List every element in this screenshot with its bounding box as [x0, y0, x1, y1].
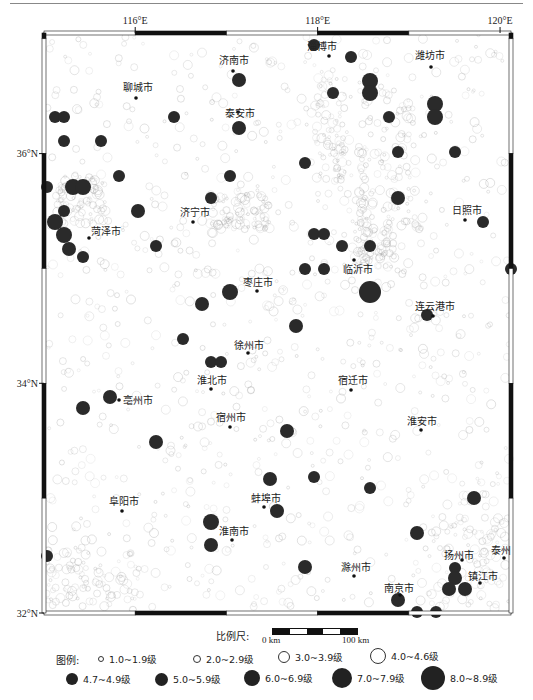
major-earthquake-marker [392, 146, 404, 158]
city-label: 济宁市 [180, 206, 210, 218]
major-earthquake-marker [467, 491, 481, 505]
legend-item: 4.7~4.9级 [66, 672, 131, 686]
scale-start-label: 0 km [262, 635, 280, 645]
major-earthquake-marker [95, 135, 107, 147]
city-marker [352, 574, 356, 578]
major-earthquake-marker [391, 593, 405, 607]
legend-item: 6.0~6.9级 [244, 670, 313, 686]
major-earthquake-marker [205, 192, 217, 204]
city-label: 淮南市 [219, 525, 249, 537]
city-label: 淮安市 [407, 415, 437, 427]
major-earthquake-marker [195, 297, 209, 311]
scale-bar [272, 628, 358, 635]
city-marker [228, 425, 232, 429]
major-earthquake-marker [149, 435, 163, 449]
legend-item: 5.0~5.9级 [155, 672, 221, 686]
scale-title: 比例尺: [216, 628, 249, 643]
filled-circle-icon [421, 666, 445, 690]
major-earthquake-marker [75, 179, 91, 195]
major-earthquake-marker [362, 85, 378, 101]
frame-border-segment [509, 268, 513, 383]
major-earthquake-marker [364, 240, 376, 252]
major-earthquake-marker [58, 205, 70, 217]
city-label: 淮北市 [197, 374, 227, 386]
legend-label: 2.0~2.9级 [206, 652, 254, 666]
legend-label: 5.0~5.9级 [173, 672, 221, 686]
major-earthquake-marker [318, 228, 330, 240]
frame-border-segment [409, 31, 511, 35]
scale-end-label: 100 km [342, 635, 369, 645]
major-earthquake-marker [204, 538, 218, 552]
city-label: 菏泽市 [91, 225, 121, 237]
major-earthquake-marker [410, 526, 424, 540]
city-label: 蚌埠市 [251, 492, 281, 504]
legend-title: 图例: [56, 652, 79, 667]
legend-item: 8.0~8.9级 [421, 666, 498, 690]
major-earthquake-marker [103, 390, 117, 404]
frame-border-segment [509, 39, 513, 154]
latitude-label: 34°N [17, 378, 38, 389]
city-marker [117, 398, 121, 402]
frame-border-segment [42, 39, 46, 154]
city-label: 枣庄市 [243, 276, 273, 288]
frame-border-segment [318, 31, 409, 35]
major-earthquake-marker [280, 424, 294, 438]
longitude-label: 116°E [123, 15, 148, 26]
city-label: 徐州市 [234, 339, 264, 351]
city-marker [352, 258, 356, 262]
major-earthquake-marker [477, 216, 489, 228]
city-marker [255, 289, 259, 293]
city-marker [431, 314, 435, 318]
major-earthquake-marker [442, 582, 456, 596]
city-label: 阜阳市 [109, 495, 139, 507]
city-marker [262, 505, 266, 509]
legend-item: 2.0~2.9级 [193, 652, 254, 666]
major-earthquake-marker [449, 146, 461, 158]
major-earthquake-marker [222, 284, 238, 300]
major-earthquake-marker [62, 242, 76, 256]
legend-label: 6.0~6.9级 [265, 671, 313, 685]
city-label: 临沂市 [343, 263, 373, 275]
city-marker [209, 387, 213, 391]
city-marker [230, 538, 234, 542]
major-earthquake-marker [224, 170, 236, 182]
city-label: 聊城市 [123, 81, 153, 93]
city-label: 泰安市 [225, 107, 255, 119]
filled-circle-icon [155, 673, 168, 686]
legend-label: 4.7~4.9级 [83, 672, 131, 686]
frame-border-segment [135, 611, 226, 615]
frame-border-segment [42, 154, 46, 269]
city-marker [134, 96, 138, 100]
filled-circle-icon [332, 668, 352, 688]
city-marker [191, 220, 195, 224]
frame-border-segment [135, 31, 226, 35]
major-earthquake-marker [113, 170, 125, 182]
city-marker [502, 556, 506, 560]
major-earthquake-marker [131, 204, 145, 218]
legend-area: 比例尺: 0 km 100 km 图例: 1.0~1.9级2.0~2.9级3.0… [0, 622, 533, 700]
major-earthquake-marker [383, 111, 395, 123]
legend-label: 8.0~8.9级 [450, 671, 498, 685]
city-marker [349, 388, 353, 392]
city-label: 泰州 [491, 544, 511, 556]
city-label: 镇江市 [468, 570, 498, 582]
frame-border-segment [42, 498, 46, 613]
major-earthquake-marker [58, 135, 70, 147]
city-marker [231, 69, 235, 73]
city-label: 南京市 [384, 582, 414, 594]
major-earthquake-marker [345, 51, 357, 63]
open-circle-icon [193, 655, 201, 663]
major-earthquake-marker [298, 560, 312, 574]
major-earthquake-marker [232, 73, 246, 87]
major-earthquake-marker [77, 251, 89, 263]
legend-item: 1.0~1.9级 [98, 652, 157, 666]
legend-item: 7.0~7.9级 [332, 668, 405, 688]
major-earthquake-marker [308, 471, 320, 483]
filled-circle-icon [244, 670, 260, 686]
major-earthquake-marker [359, 281, 381, 303]
filled-circle-icon [66, 673, 78, 685]
major-earthquake-marker [364, 482, 376, 494]
frame-border-segment [44, 31, 135, 35]
frame-border-segment [42, 33, 46, 39]
major-earthquake-marker [263, 472, 277, 486]
